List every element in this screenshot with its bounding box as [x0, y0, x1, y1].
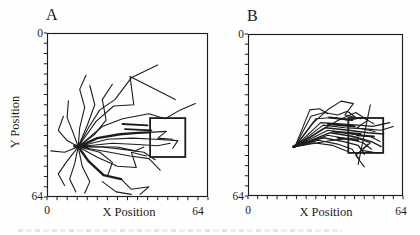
panel-a-y-tick-0: 0	[33, 27, 43, 40]
panel-b-label: B	[247, 7, 258, 25]
panel-a-x-tick-0: 0	[42, 204, 52, 217]
panel-a-x-axis-title: X Position	[81, 205, 177, 219]
panel-a-y-tick-64: 64	[20, 190, 43, 203]
panel-b-x-tick-0: 0	[243, 204, 253, 217]
panel-b-x-tick-64: 64	[392, 205, 410, 218]
panel-a-label: A	[46, 6, 58, 24]
panel-b-y-tick-0: 0	[234, 28, 244, 41]
panel-b-x-axis-title: X Position	[278, 205, 374, 219]
panel-b-trajectory-plot	[248, 34, 403, 196]
panel-b-y-tick-64: 64	[221, 190, 244, 203]
caption-fragment-illegible	[18, 229, 342, 232]
panel-a-x-tick-64: 64	[189, 205, 207, 218]
panel-a-trajectory-plot	[47, 33, 208, 197]
figure-two-panel-trajectory-plot: { "colors": { "ink": "#1c1c1c", "paper":…	[0, 0, 420, 235]
panel-a-y-axis-title: Y Position	[8, 96, 23, 149]
